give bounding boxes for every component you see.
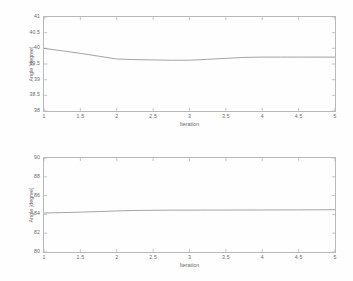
x-tick-label: 2.5 <box>149 255 157 260</box>
x-tick-label: 2 <box>115 255 118 260</box>
y-tick-label: 40.5 <box>30 30 41 35</box>
x-tick-label: 3.5 <box>222 114 230 119</box>
x-tick-label: 2.5 <box>149 114 157 119</box>
x-tick-label: 4 <box>261 114 264 119</box>
data-line-top <box>44 48 335 60</box>
y-tick-label: 86 <box>34 193 40 198</box>
y-axis-label-top: Angle [degree] <box>29 46 34 81</box>
chart-panel-top: 3838.53939.54040.541 11.522.533.544.55 I… <box>0 0 353 140</box>
plot-svg-top <box>44 17 335 111</box>
y-tick-label: 80 <box>34 249 40 254</box>
tick-marks-top <box>44 17 335 111</box>
plot-area-bottom: 808284868890 11.522.533.544.55 Iteration… <box>43 157 336 253</box>
x-tick-label: 4 <box>261 255 264 260</box>
plot-area-top: 3838.53939.54040.541 11.522.533.544.55 I… <box>43 16 336 112</box>
x-tick-label: 3.5 <box>222 255 230 260</box>
x-tick-label: 1.5 <box>77 255 85 260</box>
y-tick-label: 90 <box>34 155 40 160</box>
y-tick-label: 38 <box>34 108 40 113</box>
y-tick-label: 41 <box>34 14 40 19</box>
y-tick-label: 38.5 <box>30 93 41 98</box>
x-axis-label-bottom: Iteration <box>180 263 199 268</box>
figure-canvas: 3838.53939.54040.541 11.522.533.544.55 I… <box>0 0 353 281</box>
x-tick-label: 5 <box>334 255 337 260</box>
chart-panel-bottom: 808284868890 11.522.533.544.55 Iteration… <box>0 141 353 281</box>
x-tick-label: 5 <box>334 114 337 119</box>
data-line-bottom <box>44 210 335 213</box>
y-tick-label: 39 <box>34 77 40 82</box>
x-tick-label: 1 <box>43 255 46 260</box>
y-tick-label: 88 <box>34 174 40 179</box>
y-tick-label: 84 <box>34 212 40 217</box>
x-tick-label: 4.5 <box>295 114 303 119</box>
y-tick-label: 40 <box>34 46 40 51</box>
y-axis-label-bottom: Angle [degree] <box>29 187 34 222</box>
x-tick-label: 1.5 <box>77 114 85 119</box>
x-tick-label: 2 <box>115 114 118 119</box>
x-tick-label: 4.5 <box>295 255 303 260</box>
x-tick-label: 1 <box>43 114 46 119</box>
x-axis-label-top: Iteration <box>180 122 199 127</box>
plot-svg-bottom <box>44 158 335 252</box>
x-tick-label: 3 <box>188 255 191 260</box>
x-tick-label: 3 <box>188 114 191 119</box>
tick-marks-bottom <box>44 158 335 252</box>
y-tick-label: 82 <box>34 231 40 236</box>
